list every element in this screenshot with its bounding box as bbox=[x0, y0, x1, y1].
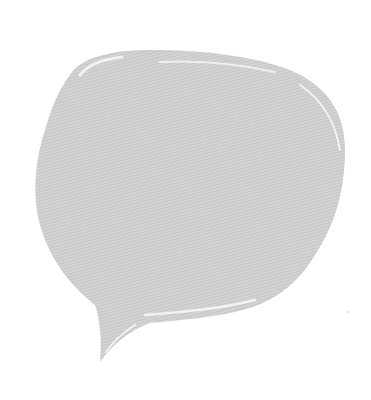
bubble-body bbox=[35, 50, 345, 362]
speck bbox=[347, 311, 349, 313]
speech-bubble-icon bbox=[0, 0, 371, 400]
speech-bubble-canvas bbox=[0, 0, 371, 400]
